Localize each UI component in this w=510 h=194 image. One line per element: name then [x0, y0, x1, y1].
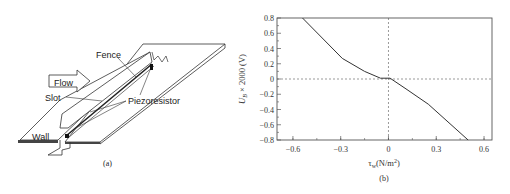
label-slot: Slot	[45, 93, 61, 103]
x-axis-label: τw(N/m2)	[368, 158, 400, 169]
y-tick-label: −0.6	[259, 121, 274, 130]
y-tick-label: −0.2	[259, 90, 274, 99]
x-tick-label: 0.3	[431, 145, 441, 154]
figure-b-chart: −0.6−0.300.30.60.80.60.40.20−0.2−0.4−0.6…	[230, 0, 510, 194]
label-wall: Wall	[32, 132, 49, 142]
piezoresistor-bottom	[65, 134, 69, 138]
label-flow: Flow	[54, 78, 74, 88]
y-tick-label: 0.8	[264, 14, 274, 23]
y-tick-label: 0.6	[264, 29, 274, 38]
figure-a-schematic: Fence Flow Slot Piezoresistor Wall (a)	[0, 0, 260, 194]
y-tick-label: −0.4	[259, 106, 274, 115]
y-tick-label: 0	[270, 75, 274, 84]
y-tick-label: 0.4	[264, 45, 274, 54]
y-axis-label: UB × 2000 (V)	[237, 54, 248, 104]
x-tick-label: −0.3	[333, 145, 348, 154]
y-tick-label: 0.2	[264, 60, 274, 69]
y-tick-label: −0.8	[259, 136, 274, 145]
x-tick-label: 0	[386, 145, 390, 154]
reference-lines	[277, 18, 492, 140]
line-chart: −0.6−0.300.30.60.80.60.40.20−0.2−0.4−0.6…	[230, 0, 510, 194]
label-fence: Fence	[96, 50, 121, 60]
piezoresistor-top	[150, 64, 153, 70]
label-piezoresistor: Piezoresistor	[128, 96, 180, 106]
caption-b: (b)	[379, 174, 389, 183]
caption-a: (a)	[103, 159, 112, 168]
x-tick-label: −0.6	[286, 145, 301, 154]
axis-ticks: −0.6−0.300.30.60.80.60.40.20−0.2−0.4−0.6…	[259, 14, 489, 154]
sensor-schematic-diagram: Fence Flow Slot Piezoresistor Wall (a)	[0, 0, 260, 194]
x-tick-label: 0.6	[479, 145, 489, 154]
